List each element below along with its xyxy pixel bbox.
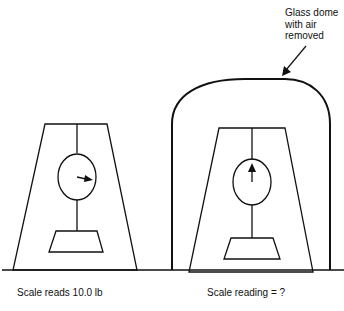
- right-scale-caption: Scale reading = ?: [207, 287, 285, 299]
- dome-annotation-label: Glass dome with air removed: [285, 7, 344, 42]
- right-scale-frame: [189, 128, 313, 272]
- left-scale-frame: [13, 124, 137, 270]
- left-needle-arrowhead-icon: [84, 175, 93, 182]
- right-assembly: [172, 79, 330, 272]
- dome-pointer-line: [286, 46, 306, 70]
- diagram-canvas: [0, 0, 344, 311]
- right-weighing-pan: [224, 238, 280, 259]
- right-needle-arrowhead-icon: [248, 163, 256, 172]
- dome-pointer-arrowhead-icon: [282, 66, 291, 76]
- left-scale-caption: Scale reads 10.0 lb: [17, 287, 103, 299]
- left-scale: [13, 124, 137, 270]
- left-weighing-pan: [49, 231, 103, 252]
